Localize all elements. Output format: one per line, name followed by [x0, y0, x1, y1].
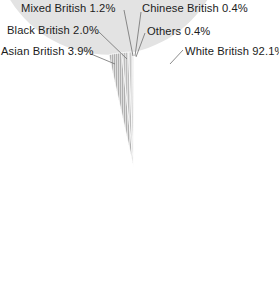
pie-label-asian-british: Asian British 3.9%: [1, 45, 94, 57]
leader-line-white: [170, 50, 183, 64]
pie-chart-figure: Mixed British 1.2% Black British 2.0% As…: [0, 0, 279, 290]
pie-label-white-british: White British 92.1%: [185, 45, 279, 57]
pie-label-others: Others 0.4%: [147, 25, 210, 37]
pie-label-chinese-british: Chinese British 0.4%: [142, 2, 248, 14]
pie-label-mixed-british: Mixed British 1.2%: [21, 2, 115, 14]
pie-chart-canvas: [0, 0, 279, 290]
pie-label-black-british: Black British 2.0%: [7, 24, 99, 36]
